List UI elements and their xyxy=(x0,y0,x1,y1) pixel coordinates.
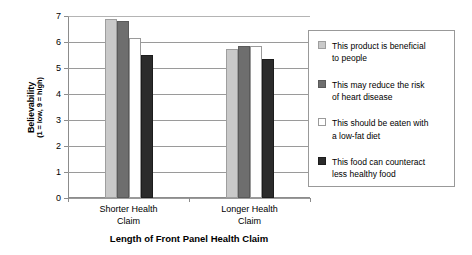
legend-label: This product is beneficialto people xyxy=(332,40,426,65)
y-axis-tick-label: 4 xyxy=(56,90,61,99)
category-tick xyxy=(68,198,69,202)
x-axis-title: Length of Front Panel Health Claim xyxy=(68,233,310,244)
y-axis-title: Believability (1 = low, 9 = high) xyxy=(18,16,52,198)
bar xyxy=(250,46,262,198)
y-axis-tick xyxy=(64,146,68,147)
category-tick xyxy=(189,198,190,202)
bar xyxy=(117,21,129,198)
y-axis-tick xyxy=(64,172,68,173)
legend-item[interactable]: This food can counteractless healthy foo… xyxy=(318,156,448,181)
y-axis-title-sub: (1 = low, 9 = high) xyxy=(36,77,45,138)
y-axis-tick xyxy=(64,42,68,43)
y-axis-tick xyxy=(64,16,68,17)
legend-label: This should be eaten witha low-fat diet xyxy=(332,117,428,142)
legend-box: This product is beneficialto peopleThis … xyxy=(308,30,455,187)
plot-area: 01234567 xyxy=(68,16,310,198)
y-axis-tick xyxy=(64,68,68,69)
bar xyxy=(226,49,238,199)
legend-swatch-icon xyxy=(318,118,326,126)
bar-chart-figure: Believability (1 = low, 9 = high) 012345… xyxy=(0,0,472,255)
category-label: Shorter HealthClaim xyxy=(74,203,184,227)
legend-swatch-icon xyxy=(318,41,326,49)
legend-swatch-icon xyxy=(318,80,326,88)
category-tick xyxy=(310,198,311,202)
bar xyxy=(129,38,141,198)
y-axis-tick-label: 3 xyxy=(56,116,61,125)
category-label: Longer HealthClaim xyxy=(195,203,305,227)
bar xyxy=(141,55,153,198)
y-axis-tick-label: 5 xyxy=(56,64,61,73)
bar xyxy=(238,46,250,198)
y-axis-tick-label: 7 xyxy=(56,12,61,21)
legend-label: This food can counteractless healthy foo… xyxy=(332,156,425,181)
y-axis-tick-label: 2 xyxy=(56,142,61,151)
legend-item[interactable]: This may reduce the riskof heart disease xyxy=(318,79,448,104)
legend-items: This product is beneficialto peopleThis … xyxy=(318,40,448,181)
y-axis-tick xyxy=(64,94,68,95)
legend-item[interactable]: This product is beneficialto people xyxy=(318,40,448,65)
y-axis-tick-label: 1 xyxy=(56,168,61,177)
y-axis-tick xyxy=(64,120,68,121)
legend-swatch-icon xyxy=(318,157,326,165)
legend-item[interactable]: This should be eaten witha low-fat diet xyxy=(318,117,448,142)
bar xyxy=(105,19,117,198)
legend-label: This may reduce the riskof heart disease xyxy=(332,79,425,104)
y-axis-tick-label: 6 xyxy=(56,38,61,47)
y-axis-tick-label: 0 xyxy=(56,194,61,203)
bar xyxy=(262,59,274,198)
